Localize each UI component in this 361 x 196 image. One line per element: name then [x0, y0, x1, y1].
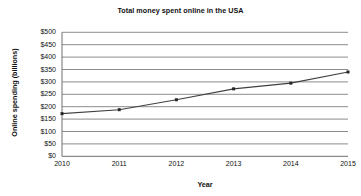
y-tick-label: $100 [20, 128, 56, 136]
data-point-markers [61, 70, 350, 115]
series-line [62, 72, 348, 114]
x-tick-label: 2010 [42, 160, 82, 168]
x-tick-label: 2014 [271, 160, 311, 168]
y-tick-label: $150 [20, 115, 56, 123]
y-tick-label: $50 [20, 140, 56, 148]
y-tick-label: $200 [20, 103, 56, 111]
y-tick-label: $450 [20, 41, 56, 49]
y-tick-label: $350 [20, 66, 56, 74]
data-point [347, 70, 350, 73]
data-point [232, 87, 235, 90]
data-point [61, 112, 64, 115]
x-tick-label: 2012 [156, 160, 196, 168]
x-tick-label: 2011 [99, 160, 139, 168]
data-point [175, 98, 178, 101]
y-tick-label: $250 [20, 90, 56, 98]
x-tick-label: 2015 [328, 160, 361, 168]
y-tick-label: $500 [20, 28, 56, 36]
line-chart: Total money spent online in the USA Onli… [0, 0, 361, 196]
gridlines [62, 32, 348, 144]
y-tick-label: $300 [20, 78, 56, 86]
x-tick-label: 2013 [214, 160, 254, 168]
y-tick-label: $400 [20, 53, 56, 61]
data-point [289, 82, 292, 85]
data-point [118, 108, 121, 111]
